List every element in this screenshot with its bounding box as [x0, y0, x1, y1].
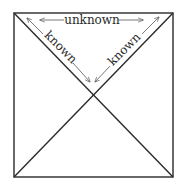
- label-unknown: unknown: [64, 13, 120, 27]
- left-diag-down-arrow-icon: [73, 63, 90, 82]
- right-diag-up-arrow-icon: [142, 17, 159, 34]
- square-diagonals-diagram: unknown known known: [0, 0, 183, 189]
